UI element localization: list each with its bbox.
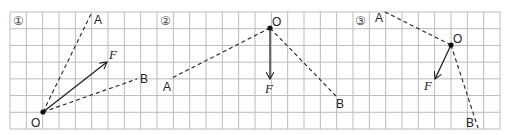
point-label-O: O [272,15,281,29]
force-label-F: F [264,81,274,96]
force-label-F: F [108,47,118,62]
point-label-B: B [140,72,148,86]
point-label-B: B [466,116,474,130]
force-label-F: F [423,78,433,93]
point-label-B: B [336,97,344,111]
point-label-O: O [453,32,462,46]
panel-number: ① [13,14,24,28]
point-O-dot [40,109,45,114]
panel-number: ③ [355,14,366,28]
point-label-A: A [375,11,383,25]
point-label-O: O [31,116,40,130]
panel-number: ② [160,14,171,28]
force-diagram: ①ABFO②ABFO③ABFO [0,0,508,135]
point-label-A: A [94,13,102,27]
point-label-A: A [163,80,171,94]
